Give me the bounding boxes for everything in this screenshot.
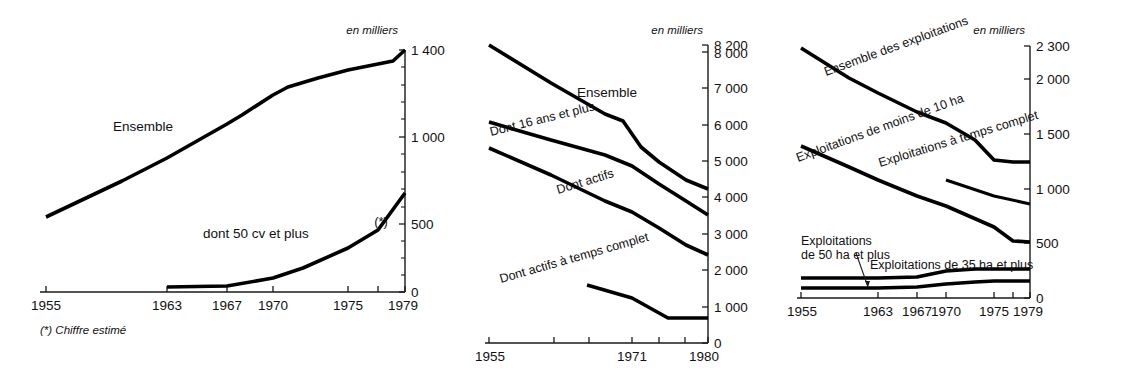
unit-label: en milliers xyxy=(346,24,398,36)
x-tick-label-1975: 1975 xyxy=(979,304,1009,319)
x-ticks xyxy=(801,292,1030,298)
series-line-actifs-temps-complet xyxy=(587,285,708,318)
x-tick-label-1967: 1967 xyxy=(902,304,932,319)
y-tick-label-2300: 2 300 xyxy=(1036,39,1070,54)
y-tick-label-3000: 3 000 xyxy=(714,227,748,242)
x-tick-label-1979: 1979 xyxy=(1013,304,1043,319)
x-tick-label-1963: 1963 xyxy=(152,298,182,313)
y-ticks xyxy=(702,45,708,343)
y-tick-label-5000: 5 000 xyxy=(714,154,748,169)
y-tick-label-1000: 1 000 xyxy=(411,130,445,145)
y-tick-label-1500: 1 500 xyxy=(1036,127,1070,142)
unit-label: en milliers xyxy=(973,24,1025,36)
x-ticks xyxy=(489,337,708,343)
chart-panel-exploitations: en milliers 2 300 2 000 1 500 1 000 500 … xyxy=(785,0,1123,382)
x-tick-label-1975: 1975 xyxy=(333,298,363,313)
series-label-ensemble: Ensemble xyxy=(577,85,637,100)
series-label-ensemble: Ensemble xyxy=(113,119,173,134)
unit-label: en milliers xyxy=(651,24,703,36)
exploitations-svg: en milliers 2 300 2 000 1 500 1 000 500 … xyxy=(785,0,1123,382)
chart-panel-tracteurs: en milliers xyxy=(0,0,450,382)
footnote: (*) Chiffre estimé xyxy=(40,324,126,336)
series-label-exploitations-35ha-plus: Exploitations de 35 ha et plus xyxy=(870,258,1033,272)
series-label-16-ans-et-plus: Dont 16 ans et plus xyxy=(488,99,596,139)
x-tick-label-1980: 1980 xyxy=(689,349,719,364)
y-tick-label-2000: 2 000 xyxy=(714,263,748,278)
series-line-ensemble xyxy=(46,50,405,217)
series-line-dont-actifs xyxy=(489,148,708,255)
x-tick-label-1970: 1970 xyxy=(258,298,288,313)
series-label-exploitations-moins-10ha: Exploitations de moins de 10 ha xyxy=(794,91,965,165)
y-tick-label-8000: 8 000 xyxy=(714,46,748,61)
y-tick-label-1400: 1 400 xyxy=(411,43,445,58)
x-tick-label-1967: 1967 xyxy=(212,298,242,313)
y-tick-label-1000: 1 000 xyxy=(714,300,748,315)
population-agricole-svg: en milliers 8 200 8 000 7 000 6 000 5 00… xyxy=(450,0,785,382)
callout-label-line2: de 50 ha et plus xyxy=(801,248,890,262)
x-tick-label-1971: 1971 xyxy=(617,349,647,364)
tracteurs-svg: en milliers xyxy=(0,0,450,382)
chart-panel-population-agricole: en milliers 8 200 8 000 7 000 6 000 5 00… xyxy=(450,0,785,382)
y-tick-label-6000: 6 000 xyxy=(714,118,748,133)
series-line-exploitations-50ha-plus xyxy=(801,281,1030,288)
x-tick-label-1970: 1970 xyxy=(931,304,961,319)
y-ticks xyxy=(399,50,405,292)
y-tick-label-500: 500 xyxy=(1036,236,1059,251)
figure-root: en milliers xyxy=(0,0,1123,382)
y-tick-label-2000: 2 000 xyxy=(1036,72,1070,87)
y-tick-label-500: 500 xyxy=(411,217,434,232)
y-tick-label-4000: 4 000 xyxy=(714,190,748,205)
series-label-actifs-temps-complet: Dont actifs à temps complet xyxy=(498,230,651,286)
x-tick-label-1955: 1955 xyxy=(475,349,505,364)
x-tick-label-1955: 1955 xyxy=(787,304,817,319)
callout-label-line1: Exploitations xyxy=(801,234,872,248)
y-tick-label-1000: 1 000 xyxy=(1036,182,1070,197)
estimate-marker: (*) xyxy=(374,214,388,229)
x-tick-label-1979: 1979 xyxy=(388,298,418,313)
x-tick-label-1955: 1955 xyxy=(31,298,61,313)
y-tick-label-7000: 7 000 xyxy=(714,81,748,96)
series-line-16-ans-et-plus xyxy=(489,122,708,215)
series-label-dont-50-cv: dont 50 cv et plus xyxy=(203,226,309,241)
series-line-exploitations-temps-complet xyxy=(946,180,1030,204)
x-tick-label-1963: 1963 xyxy=(863,304,893,319)
series-label-ensemble-exploitations: Ensemble des exploitations xyxy=(822,14,970,79)
